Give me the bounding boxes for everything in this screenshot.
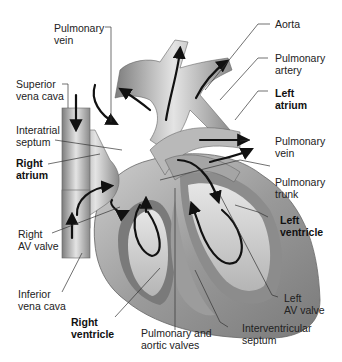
- label-pulmonary-trunk: Pulmonary trunk: [275, 176, 325, 200]
- label-interatrial-septum: Interatrial septum: [16, 124, 60, 148]
- label-right-ventricle: Right ventricle: [71, 316, 114, 340]
- label-pulmonary-aortic-valves: Pulmonary and aortic valves: [141, 327, 212, 351]
- vena-cava: [62, 108, 90, 258]
- label-pulmonary-vein-top: Pulmonary vein: [54, 22, 104, 46]
- label-pulmonary-artery: Pulmonary artery: [275, 52, 325, 76]
- label-inferior-vena-cava: Inferior vena cava: [18, 288, 66, 312]
- label-left-atrium: Left atrium: [275, 87, 307, 111]
- label-pulmonary-vein-right: Pulmonary vein: [275, 135, 325, 159]
- label-left-av-valve: Left AV valve: [284, 292, 325, 316]
- label-aorta: Aorta: [275, 18, 300, 30]
- label-interventricular-septum: Interventricular septum: [242, 322, 311, 346]
- label-left-ventricle: Left ventricle: [280, 214, 323, 238]
- label-right-av-valve: Right AV valve: [18, 228, 59, 252]
- label-right-atrium: Right atrium: [16, 157, 48, 181]
- label-superior-vena-cava: Superior vena cava: [16, 78, 64, 102]
